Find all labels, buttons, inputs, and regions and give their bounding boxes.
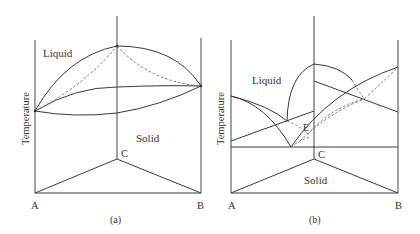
panel-b-base-left-edge <box>231 159 314 193</box>
panel-b-eutectic-label: E <box>303 123 309 133</box>
panel-b-liquidus-a-side <box>231 96 291 147</box>
panel-a-vertex-a-label: A <box>31 200 39 211</box>
panel-a-base-right-edge <box>117 159 201 193</box>
panel-a-vertex-c-label: C <box>121 148 128 159</box>
panel-a-temperature-axis-label: Temperature <box>20 92 31 145</box>
panel-a-vertex-b-label: B <box>197 200 204 211</box>
panel-b-dashed-inner <box>300 99 364 141</box>
panel-b-eutectic-trough-ab <box>291 137 310 147</box>
panel-b-eutectic-trough-cb <box>308 67 398 134</box>
panel-b-vertex-b-label: B <box>395 200 402 211</box>
panel-b-liquidus-cb-c <box>314 64 352 80</box>
panel-b-vertex-a-label: A <box>228 200 236 211</box>
phase-diagram-figure: Liquid Solid C A B (a) Temperature <box>0 0 420 234</box>
panel-a-melting-point-a <box>34 110 36 112</box>
panel-a-liquidus-cb <box>117 46 201 86</box>
panel-b-liquid-label: Liquid <box>252 74 282 86</box>
panel-a-base-left-edge <box>35 159 117 193</box>
panel-b: Liquid E Solid C A B (b) Temperature <box>215 16 402 226</box>
panel-a-liquidus-ab <box>35 86 201 111</box>
panel-b-solid-label: Solid <box>304 174 328 186</box>
panel-b-temperature-axis-label: Temperature <box>215 92 226 145</box>
panel-a-solidus-ab <box>35 86 201 115</box>
panel-b-solvus-a-face <box>231 111 314 141</box>
panel-a-caption: (a) <box>110 214 121 226</box>
panel-a-liquid-label: Liquid <box>43 47 73 59</box>
panel-b-vertex-c-label: C <box>318 149 325 160</box>
panel-a: Liquid Solid C A B (a) Temperature <box>20 16 204 226</box>
panel-a-melting-point-b <box>200 85 203 88</box>
panel-a-melting-point-c <box>116 45 119 48</box>
panel-a-solid-label: Solid <box>136 132 160 144</box>
panel-a-solidus-cb-dashed <box>117 46 201 86</box>
panel-b-liquidus-ac-a <box>231 96 287 121</box>
panel-b-caption: (b) <box>309 214 321 226</box>
